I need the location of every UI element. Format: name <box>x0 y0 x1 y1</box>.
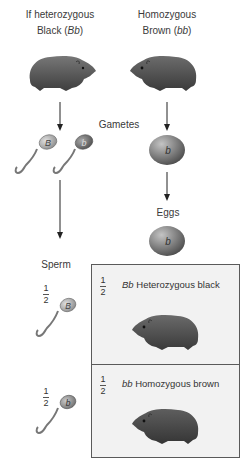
sperm-label: Sperm <box>35 257 77 273</box>
parent-left-label: If heterozygous Black (Bb) <box>14 7 106 39</box>
punnett-sperm-b-icon: b <box>34 394 80 442</box>
cell-bb-label: bb Homozygous brown <box>122 378 219 389</box>
arrow-sperm-to-sperm-label <box>55 180 65 240</box>
sperm-b-icon: b <box>50 133 96 181</box>
arrow-left-parent-to-sperm <box>55 102 65 132</box>
svg-text:b: b <box>165 145 171 156</box>
guinea-pig-brown-offspring-icon <box>130 403 202 449</box>
punnett-sperm-B-icon: B <box>34 297 80 345</box>
svg-text:b: b <box>165 236 171 247</box>
punnett-cell-Bb: 12 Bb Heterozygous black <box>92 265 239 365</box>
guinea-pig-black-offspring-icon <box>130 309 202 355</box>
guinea-pig-black-parent-icon <box>26 50 98 96</box>
svg-text:b: b <box>66 398 71 408</box>
arrow-right-parent-to-egg <box>162 102 172 132</box>
parent-left-line1: If heterozygous <box>14 7 106 23</box>
punnett-egg-b-icon: b <box>148 225 186 259</box>
guinea-pig-brown-parent-icon <box>128 50 200 96</box>
arrow-egg-to-eggs-label <box>162 172 172 202</box>
svg-text:b: b <box>81 138 86 148</box>
parent-right-label: Homozygous Brown (bb) <box>122 7 212 39</box>
egg-b-icon: b <box>148 133 186 167</box>
svg-text:B: B <box>65 301 71 311</box>
parent-right-line2: Brown (bb) <box>122 23 212 39</box>
punnett-square: 12 Bb Heterozygous black 12 bb Homozygou… <box>91 264 240 458</box>
cell-bb-fraction: 12 <box>100 375 106 396</box>
eggs-label: Eggs <box>150 205 186 221</box>
cell-Bb-fraction: 12 <box>100 276 106 297</box>
punnett-cell-bb: 12 bb Homozygous brown <box>92 365 239 457</box>
parent-right-line1: Homozygous <box>122 7 212 23</box>
gametes-label: Gametes <box>89 117 149 133</box>
cell-Bb-label: Bb Heterozygous black <box>122 279 220 290</box>
parent-left-line2: Black (Bb) <box>14 23 106 39</box>
